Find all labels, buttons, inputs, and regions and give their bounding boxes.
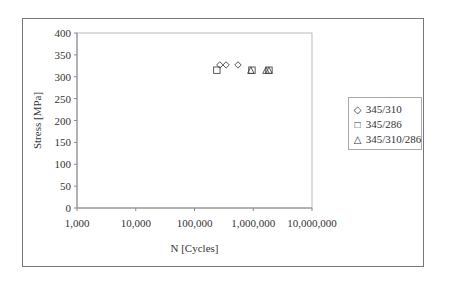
legend-item-345-310-286: △ 345/310/286: [352, 132, 421, 147]
x-tick-label: 10,000: [121, 217, 152, 229]
x-tick-label: 10,000,000: [287, 217, 337, 229]
y-tick-label: 250: [55, 93, 72, 105]
square-marker-icon: □: [352, 117, 363, 132]
x-tick-label: 100,000: [177, 217, 213, 229]
diamond-marker-icon: ◇: [352, 102, 363, 117]
legend: ◇ 345/310 □ 345/286 △ 345/310/286: [348, 97, 422, 150]
y-tick-label: 200: [55, 115, 72, 127]
y-tick-label: 50: [60, 180, 72, 192]
y-axis-label: Stress [MPa]: [31, 92, 43, 149]
y-tick-label: 150: [55, 136, 72, 148]
legend-item-345-286: □ 345/286: [352, 117, 402, 132]
triangle-marker-icon: △: [352, 132, 363, 147]
x-tick-label: 1,000,000: [231, 217, 276, 229]
diamond-marker-icon: [223, 62, 229, 68]
legend-label: 345/310/286: [366, 133, 422, 145]
x-axis-label: N [Cycles]: [171, 242, 219, 254]
y-tick-label: 400: [55, 27, 72, 39]
legend-label: 345/310: [366, 103, 402, 115]
y-tick-label: 300: [55, 71, 72, 83]
legend-item-345-310: ◇ 345/310: [352, 102, 402, 117]
y-tick-label: 350: [55, 49, 72, 61]
legend-label: 345/286: [366, 118, 402, 130]
x-tick-label: 1,000: [65, 217, 90, 229]
y-tick-label: 0: [66, 202, 72, 214]
y-tick-label: 100: [55, 158, 72, 170]
plot-area: [77, 33, 312, 208]
diamond-marker-icon: [235, 62, 241, 68]
